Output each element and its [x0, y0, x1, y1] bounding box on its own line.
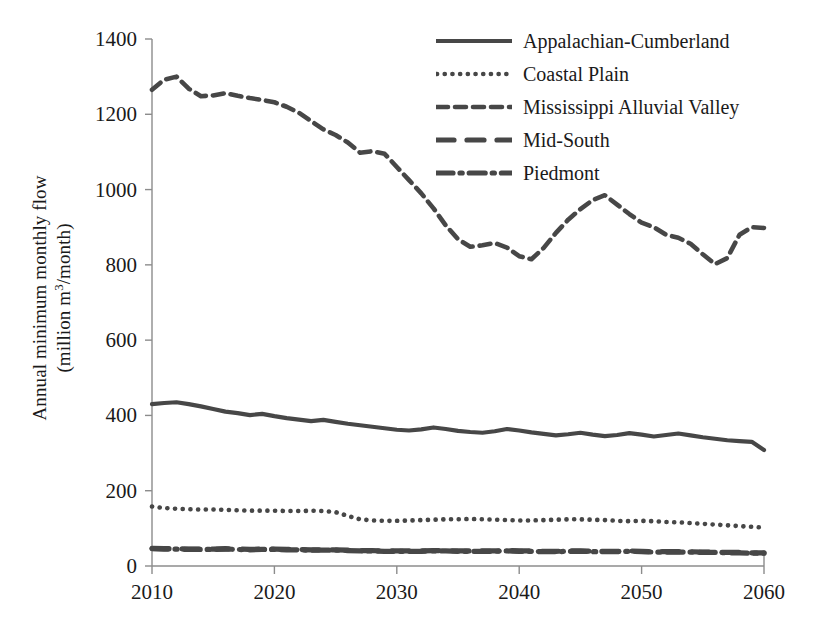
legend-item[interactable]: Appalachian-Cumberland — [436, 28, 739, 54]
legend-line-swatch — [436, 132, 512, 148]
legend-item-label: Piedmont — [523, 163, 600, 183]
legend-item-label: Coastal Plain — [523, 64, 629, 84]
legend-item[interactable]: Coastal Plain — [436, 61, 739, 87]
legend: Appalachian-CumberlandCoastal PlainMissi… — [436, 28, 739, 186]
legend-line-swatch — [436, 66, 512, 82]
series-line — [152, 507, 764, 528]
legend-item-label: Mississippi Alluvial Valley — [523, 97, 739, 117]
series-line — [152, 402, 764, 450]
legend-item[interactable]: Piedmont — [436, 160, 739, 186]
legend-line-swatch — [436, 99, 512, 115]
legend-item[interactable]: Mid-South — [436, 127, 739, 153]
legend-item-label: Appalachian-Cumberland — [523, 31, 730, 51]
legend-item-label: Mid-South — [523, 130, 610, 150]
legend-item[interactable]: Mississippi Alluvial Valley — [436, 94, 739, 120]
legend-line-swatch — [436, 33, 512, 49]
chart-container: Annual minimum monthly flow (million m3/… — [0, 0, 829, 635]
legend-line-swatch — [436, 165, 512, 181]
